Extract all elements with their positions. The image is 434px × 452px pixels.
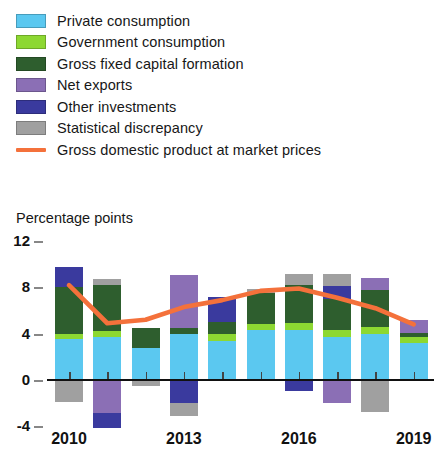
y-axis-tick-label: 8 (0, 278, 43, 295)
y-axis-tick-label: 4 (0, 324, 43, 341)
zero-baseline (47, 379, 434, 381)
x-axis-tick-mark (107, 372, 109, 379)
x-axis-tick-mark (414, 372, 416, 379)
bar-segment (93, 279, 121, 285)
bars-container (47, 240, 434, 425)
legend-item[interactable]: Net exports (16, 75, 426, 97)
bar-segment (247, 289, 275, 294)
bar-column[interactable] (208, 240, 236, 425)
y-tick-text: 8 (22, 278, 30, 295)
legend-item-label: Other investments (57, 99, 176, 115)
bar-segment (400, 337, 428, 343)
x-axis-tick-mark (299, 372, 301, 379)
bar-column[interactable] (247, 240, 275, 425)
legend-item[interactable]: Gross fixed capital formation (16, 53, 426, 75)
bar-column[interactable] (323, 240, 351, 425)
legend-item-label: Gross fixed capital formation (57, 56, 244, 72)
color-swatch-icon (16, 100, 46, 114)
x-axis-tick-mark (337, 372, 339, 379)
bar-segment (55, 334, 83, 340)
bar-segment (170, 379, 198, 403)
legend-item[interactable]: Private consumption (16, 10, 426, 32)
bar-segment (93, 413, 121, 428)
y-tick-mark-icon (34, 242, 43, 243)
y-tick-text: 0 (22, 370, 30, 387)
bar-segment (361, 379, 389, 413)
bar-segment (55, 287, 83, 333)
y-axis-tick-label: 0 (0, 370, 43, 387)
chart-plot-area: 12840-4 2010201320162019 (0, 240, 434, 452)
bar-segment (93, 379, 121, 414)
legend-item[interactable]: Other investments (16, 96, 426, 118)
y-axis-tick-label: -4 (0, 417, 43, 434)
chart-legend: Private consumptionGovernment consumptio… (16, 10, 426, 161)
bar-column[interactable] (170, 240, 198, 425)
y-tick-mark-icon (34, 288, 43, 289)
bar-segment (285, 285, 313, 323)
color-swatch-icon (16, 14, 46, 28)
x-axis-tick-mark (261, 372, 263, 379)
x-axis-tick-mark (146, 372, 148, 379)
color-swatch-icon (16, 35, 46, 49)
legend-item-label: Private consumption (57, 13, 190, 29)
bar-segment (400, 320, 428, 333)
y-tick-mark-icon (34, 334, 43, 335)
y-tick-mark-icon (34, 380, 43, 381)
bar-segment (55, 267, 83, 288)
x-axis-tick-mark (375, 372, 377, 379)
bar-column[interactable] (55, 240, 83, 425)
x-axis-tick-mark (69, 372, 71, 379)
x-axis-label: 2013 (166, 430, 202, 448)
x-axis-tick-mark (222, 372, 224, 379)
bar-column[interactable] (361, 240, 389, 425)
bar-segment (93, 331, 121, 337)
bar-segment (361, 290, 389, 327)
bar-column[interactable] (132, 240, 160, 425)
bar-segment (208, 322, 236, 334)
bar-segment (208, 297, 236, 322)
bar-segment (323, 330, 351, 337)
bar-segment (361, 327, 389, 334)
color-swatch-icon (16, 78, 46, 92)
bar-segment (323, 379, 351, 403)
color-swatch-icon (16, 57, 46, 71)
y-tick-text: 4 (22, 324, 30, 341)
bar-segment (323, 299, 351, 330)
bar-segment (247, 324, 275, 330)
x-axis-label: 2019 (396, 430, 432, 448)
y-axis-title: Percentage points (16, 210, 133, 226)
legend-item[interactable]: Statistical discrepancy (16, 118, 426, 140)
bar-segment (323, 274, 351, 287)
legend-item-label: Gross domestic product at market prices (57, 142, 321, 158)
bar-segment (323, 286, 351, 299)
bar-segment (285, 274, 313, 286)
bar-column[interactable] (285, 240, 313, 425)
y-tick-text: -4 (17, 417, 30, 434)
color-swatch-icon (16, 121, 46, 135)
bar-column[interactable] (93, 240, 121, 425)
x-axis-label: 2010 (51, 430, 87, 448)
bar-segment (132, 328, 160, 348)
legend-item-label: Government consumption (57, 34, 225, 50)
bar-segment (55, 379, 83, 402)
y-axis-tick-label: 12 (0, 232, 43, 249)
bar-segment (170, 275, 198, 328)
legend-item-label: Net exports (57, 77, 132, 93)
x-axis-label: 2016 (281, 430, 317, 448)
bar-segment (361, 278, 389, 290)
bar-segment (170, 403, 198, 416)
bar-segment (247, 293, 275, 324)
legend-item[interactable]: Government consumption (16, 32, 426, 54)
bar-segment (93, 285, 121, 331)
bar-segment (285, 323, 313, 330)
y-tick-text: 12 (13, 232, 30, 249)
bar-segment (170, 328, 198, 334)
line-swatch-icon (16, 143, 46, 157)
bar-segment (400, 333, 428, 338)
legend-item[interactable]: Gross domestic product at market prices (16, 139, 426, 161)
bar-column[interactable] (400, 240, 428, 425)
y-tick-mark-icon (34, 427, 43, 428)
bar-segment (208, 334, 236, 341)
legend-item-label: Statistical discrepancy (57, 120, 203, 136)
x-axis-tick-mark (184, 372, 186, 379)
